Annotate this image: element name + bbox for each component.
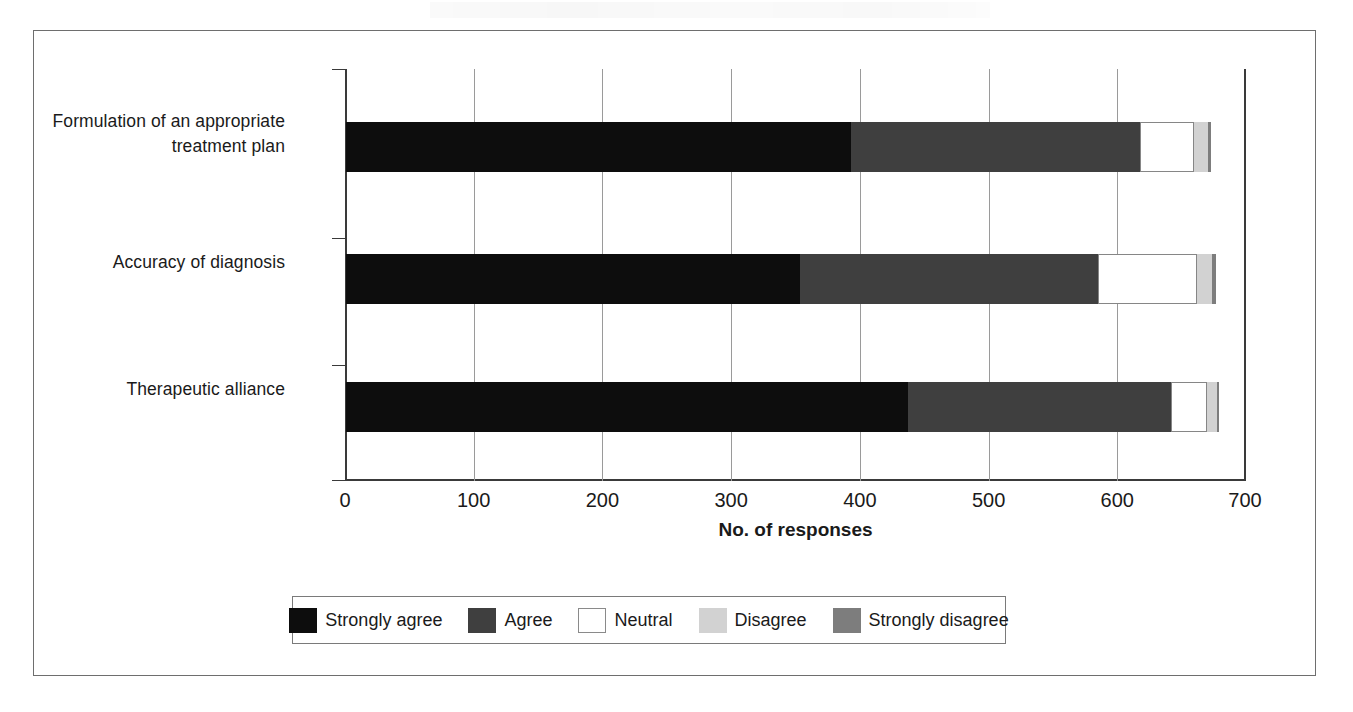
category-label-0: Formulation of an appropriate treatment … — [0, 109, 285, 159]
y-axis-tick-1 — [332, 238, 345, 239]
gridline-700 — [1244, 69, 1246, 481]
bar-segment-disagree[interactable] — [1207, 382, 1217, 432]
bar-row[interactable] — [346, 254, 1216, 304]
x-tick-label-100: 100 — [434, 489, 514, 512]
chart-legend: Strongly agree Agree Neutral Disagree St… — [292, 596, 1006, 644]
legend-item-strongly-agree[interactable]: Strongly agree — [289, 608, 442, 633]
x-tick-label-0: 0 — [305, 489, 385, 512]
x-tick-label-400: 400 — [820, 489, 900, 512]
bar-row[interactable] — [346, 382, 1219, 432]
legend-item-disagree[interactable]: Disagree — [699, 608, 807, 633]
bar-segment-disagree[interactable] — [1197, 254, 1212, 304]
bar-segment-strongly-disagree[interactable] — [1208, 122, 1211, 172]
bar-segment-strongly-agree[interactable] — [346, 122, 851, 172]
legend-swatch-disagree — [699, 608, 727, 633]
legend-swatch-strongly-agree — [289, 608, 317, 633]
y-axis-tick-2 — [332, 365, 345, 366]
legend-swatch-agree — [468, 608, 496, 633]
bar-segment-agree[interactable] — [851, 122, 1141, 172]
bar-segment-strongly-disagree[interactable] — [1212, 254, 1216, 304]
legend-swatch-neutral — [578, 608, 606, 633]
bar-segment-strongly-disagree[interactable] — [1217, 382, 1218, 432]
x-tick-label-300: 300 — [691, 489, 771, 512]
category-label-0-line-1: treatment plan — [0, 134, 285, 159]
legend-label-agree: Agree — [504, 610, 552, 631]
bar-segment-strongly-agree[interactable] — [346, 382, 908, 432]
figure-frame: Formulation of an appropriate treatment … — [33, 30, 1316, 676]
category-label-0-line-0: Formulation of an appropriate — [0, 109, 285, 134]
category-label-2-line-0: Therapeutic alliance — [0, 377, 285, 402]
category-label-1-line-0: Accuracy of diagnosis — [0, 250, 285, 275]
bar-segment-neutral[interactable] — [1171, 382, 1207, 432]
legend-label-neutral: Neutral — [614, 610, 672, 631]
x-tick-label-500: 500 — [949, 489, 1029, 512]
plot-area: 0 100 200 300 400 500 600 700 — [345, 69, 1246, 481]
x-tick-label-700: 700 — [1205, 489, 1285, 512]
bar-segment-neutral[interactable] — [1098, 254, 1197, 304]
legend-label-strongly-agree: Strongly agree — [325, 610, 442, 631]
x-tick-label-600: 600 — [1077, 489, 1157, 512]
legend-item-strongly-disagree[interactable]: Strongly disagree — [833, 608, 1009, 633]
bar-segment-neutral[interactable] — [1140, 122, 1194, 172]
y-axis-tick-bottom — [332, 480, 345, 481]
page-canvas: Formulation of an appropriate treatment … — [0, 0, 1353, 712]
x-axis-line — [345, 479, 1246, 481]
bar-segment-strongly-agree[interactable] — [346, 254, 800, 304]
legend-label-strongly-disagree: Strongly disagree — [869, 610, 1009, 631]
x-axis-title: No. of responses — [345, 519, 1246, 541]
bar-segment-agree[interactable] — [800, 254, 1097, 304]
category-label-1: Accuracy of diagnosis — [0, 250, 285, 275]
scan-bleed-artifact — [430, 2, 990, 18]
category-label-2: Therapeutic alliance — [0, 377, 285, 402]
legend-item-neutral[interactable]: Neutral — [578, 608, 672, 633]
bar-row[interactable] — [346, 122, 1211, 172]
bar-segment-agree[interactable] — [908, 382, 1171, 432]
legend-item-agree[interactable]: Agree — [468, 608, 552, 633]
y-axis-tick-top — [332, 69, 345, 70]
bar-segment-disagree[interactable] — [1194, 122, 1208, 172]
legend-swatch-strongly-disagree — [833, 608, 861, 633]
legend-label-disagree: Disagree — [735, 610, 807, 631]
x-tick-label-200: 200 — [562, 489, 642, 512]
